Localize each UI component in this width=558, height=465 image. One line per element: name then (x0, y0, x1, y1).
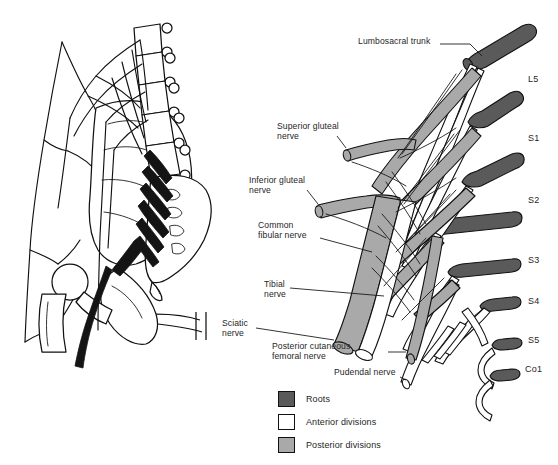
root-L5 (468, 91, 524, 127)
legend-label-roots: Roots (306, 394, 330, 404)
root-S3 (448, 259, 521, 278)
root-label-S2: S2 (528, 195, 539, 205)
legend-item-roots: Roots (278, 388, 381, 409)
nerve-label-inferior-gluteal: Inferior gluteal nerve (249, 175, 305, 196)
nerve-label-superior-gluteal: Superior gluteal nerve (277, 121, 339, 142)
nerve-label-sciatic: Sciatic nerve (222, 318, 248, 339)
root-label-Co1: Co1 (525, 364, 542, 374)
nerve-roots (430, 24, 537, 381)
root-label-S3: S3 (528, 255, 539, 265)
nerve-label-common-fibular: Common fibular nerve (258, 220, 307, 241)
root-label-L5: L5 (528, 74, 538, 84)
nerve-label-tibial: Tibial nerve (264, 279, 286, 300)
nerve-label-lumbosacral-trunk: Lumbosacral trunk (358, 36, 430, 46)
legend: Roots Anterior divisions Posterior divis… (278, 388, 381, 457)
root-label-S5: S5 (528, 335, 539, 345)
legend-swatch-roots (278, 391, 295, 407)
root-label-S1: S1 (528, 133, 539, 143)
legend-item-posterior-divisions: Posterior divisions (278, 434, 381, 455)
root-S1 (462, 153, 524, 187)
lateral-pelvis-illustration (25, 23, 211, 368)
root-Co1 (490, 369, 520, 381)
nerve-label-pudendal: Pudendal nerve (334, 367, 396, 377)
root-S5 (492, 338, 522, 350)
legend-item-anterior-divisions: Anterior divisions (278, 411, 381, 432)
legend-label-anterior-divisions: Anterior divisions (306, 417, 376, 427)
legend-swatch-posterior-divisions (278, 437, 295, 453)
root-label-S4: S4 (528, 296, 539, 306)
nerve-label-posterior-cutaneous-femoral: Posterior cutaneous femoral nerve (272, 341, 350, 362)
legend-swatch-anterior-divisions (278, 414, 295, 430)
legend-label-posterior-divisions: Posterior divisions (306, 440, 381, 450)
scan-artifact-top (6, 1, 286, 8)
femur (39, 264, 112, 352)
